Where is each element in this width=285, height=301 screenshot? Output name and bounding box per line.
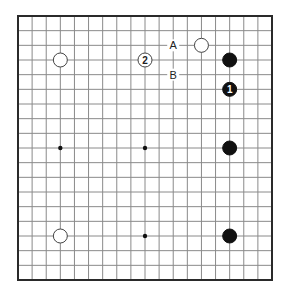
- stone-circle: [223, 53, 237, 67]
- white-stone: 2: [138, 53, 152, 67]
- black-stone: [223, 141, 237, 155]
- stone-circle: [53, 229, 67, 243]
- star-point: [58, 146, 62, 150]
- black-stone: [223, 229, 237, 243]
- stone-circle: [194, 38, 208, 52]
- stone-circle: [223, 141, 237, 155]
- star-point: [143, 146, 147, 150]
- black-stone: 1: [223, 82, 237, 96]
- marker-b: B: [170, 69, 177, 81]
- white-stone: [53, 229, 67, 243]
- marker-a: A: [170, 39, 178, 51]
- white-stone: [194, 38, 208, 52]
- black-stone: [223, 53, 237, 67]
- star-point: [143, 234, 147, 238]
- move-number: 1: [227, 84, 233, 95]
- white-stone: [53, 53, 67, 67]
- move-number: 2: [142, 55, 148, 66]
- go-board: AB 21: [0, 0, 285, 301]
- stone-circle: [223, 229, 237, 243]
- stone-circle: [53, 53, 67, 67]
